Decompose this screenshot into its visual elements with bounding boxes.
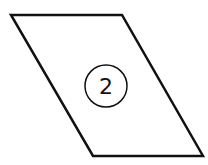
parallelogram-diagram: 2: [0, 0, 208, 165]
region-number-label: 2: [99, 74, 113, 99]
